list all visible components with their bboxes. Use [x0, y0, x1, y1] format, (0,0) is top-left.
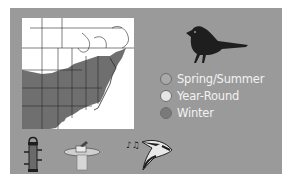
- tube-feeder-icon: [22, 134, 44, 174]
- season-legend: Spring/Summer Year-Round Winter: [160, 70, 264, 121]
- legend-label: Winter: [177, 106, 214, 120]
- legend-label: Spring/Summer: [177, 72, 264, 86]
- spring-summer-swatch: [160, 73, 172, 85]
- legend-item-year-round: Year-Round: [160, 87, 264, 104]
- winter-swatch: [160, 107, 172, 119]
- legend-label: Year-Round: [177, 89, 239, 103]
- year-round-swatch: [160, 90, 172, 102]
- range-card: Spring/Summer Year-Round Winter ♪♫: [10, 8, 282, 174]
- range-map: [22, 18, 134, 129]
- legend-item-spring-summer: Spring/Summer: [160, 70, 264, 87]
- bird-song-icon: ♪♫: [126, 136, 176, 172]
- svg-text:♪♫: ♪♫: [126, 140, 140, 150]
- bird-bath-icon: [62, 140, 102, 172]
- legend-item-winter: Winter: [160, 104, 264, 121]
- songbird-silhouette-icon: [182, 23, 252, 67]
